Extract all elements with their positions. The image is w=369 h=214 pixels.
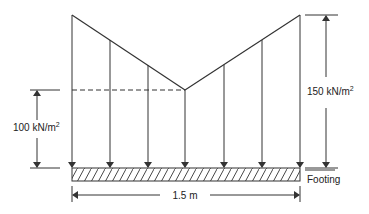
pressure-diagram: 100 kN/m2 150 kN/m2 Footing 1.5 m — [0, 0, 369, 214]
right-pressure-label: 150 kN/m2 — [307, 85, 354, 97]
pressure-outline — [72, 15, 300, 90]
width-label: 1.5 m — [172, 190, 197, 201]
footing-label: Footing — [307, 174, 340, 185]
footing-hatched — [72, 168, 300, 181]
left-pressure-label: 100 kN/m2 — [13, 121, 60, 133]
